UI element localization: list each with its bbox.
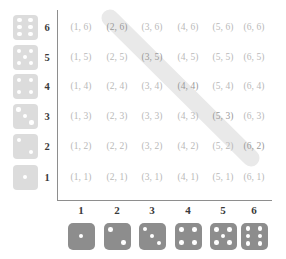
- die-pip: [157, 241, 162, 246]
- sample-space-cell: (4, 2): [177, 141, 198, 151]
- die-pip: [17, 32, 21, 36]
- die-face-6: [13, 15, 38, 40]
- row-axis-label: 1: [44, 172, 49, 183]
- die-pip: [192, 240, 197, 245]
- die-pip: [16, 107, 20, 111]
- die-pip: [214, 240, 219, 245]
- sample-space-cell: (2, 3): [106, 111, 127, 121]
- sample-space-cell: (1, 5): [70, 52, 91, 62]
- die-pip: [179, 227, 184, 232]
- die-face-1: [13, 165, 38, 190]
- sample-space-cell: (1, 6): [70, 22, 91, 32]
- die-pip: [29, 120, 33, 124]
- sample-space-cell: (5, 6): [212, 22, 233, 32]
- sample-space-cell: (3, 6): [141, 22, 162, 32]
- die-face-2: [104, 223, 131, 250]
- sample-space-cell: (6, 5): [243, 52, 264, 62]
- sample-space-cell: (6, 3): [243, 111, 264, 121]
- die-pip: [258, 226, 263, 231]
- die-pip: [17, 78, 21, 82]
- die-pip: [17, 18, 21, 22]
- die-pip: [23, 55, 27, 59]
- column-axis-label: 2: [114, 204, 120, 216]
- die-pip: [192, 227, 197, 232]
- column-axis-label: 3: [149, 204, 155, 216]
- die-pip: [28, 32, 32, 36]
- sample-space-cell: (4, 4): [177, 81, 198, 91]
- sample-space-cell: (5, 4): [212, 81, 233, 91]
- die-face-3: [139, 223, 166, 250]
- sample-space-cell: (2, 2): [106, 141, 127, 151]
- die-face-5: [210, 223, 237, 250]
- sample-space-cell: (3, 2): [141, 141, 162, 151]
- die-face-6: [241, 223, 268, 250]
- column-axis-label: 1: [78, 204, 84, 216]
- row-axis-label: 4: [44, 81, 49, 92]
- row-axis-label: 5: [44, 52, 49, 63]
- die-pip: [29, 150, 33, 154]
- vertical-axis-line: [57, 10, 58, 200]
- die-pip: [17, 61, 21, 65]
- sample-space-cell: (3, 3): [141, 111, 162, 121]
- sample-space-cell: (6, 1): [243, 172, 264, 182]
- die-pip: [23, 114, 27, 118]
- die-pip: [258, 234, 263, 239]
- die-pip: [17, 25, 21, 29]
- die-pip: [29, 61, 33, 65]
- row-axis-label: 2: [44, 141, 49, 152]
- column-axis-label: 4: [185, 204, 191, 216]
- sample-space-cell: (2, 1): [106, 172, 127, 182]
- die-face-3: [13, 104, 38, 129]
- die-pip: [246, 234, 251, 239]
- sample-space-cell: (2, 5): [106, 52, 127, 62]
- die-pip: [227, 240, 232, 245]
- column-axis-label: 5: [220, 204, 226, 216]
- sample-space-cell: (1, 2): [70, 141, 91, 151]
- column-axis-label: 6: [251, 204, 257, 216]
- die-pip: [227, 227, 232, 232]
- die-pip: [214, 227, 219, 232]
- sample-space-cell: (6, 6): [243, 22, 264, 32]
- row-axis-label: 6: [44, 22, 49, 33]
- die-pip: [17, 90, 21, 94]
- die-pip: [29, 90, 33, 94]
- die-face-4: [175, 223, 202, 250]
- sample-space-cell: (4, 5): [177, 52, 198, 62]
- sample-space-cell: (3, 1): [141, 172, 162, 182]
- die-pip: [150, 234, 155, 239]
- die-face-1: [68, 223, 95, 250]
- die-pip: [246, 226, 251, 231]
- sample-space-cell: (6, 4): [243, 81, 264, 91]
- die-pip: [29, 49, 33, 53]
- die-pip: [143, 227, 148, 232]
- sample-space-cell: (4, 6): [177, 22, 198, 32]
- sample-space-cell: (5, 1): [212, 172, 233, 182]
- die-pip: [28, 25, 32, 29]
- horizontal-axis-line: [57, 200, 272, 201]
- die-pip: [79, 234, 84, 239]
- die-pip: [29, 78, 33, 82]
- sample-space-cell: (3, 4): [141, 81, 162, 91]
- die-pip: [179, 240, 184, 245]
- die-pip: [17, 138, 21, 142]
- sample-space-cell: (3, 5): [141, 52, 162, 62]
- sample-space-cell: (2, 4): [106, 81, 127, 91]
- die-pip: [17, 49, 21, 53]
- die-face-5: [13, 45, 38, 70]
- die-face-4: [13, 74, 38, 99]
- sample-space-cell: (2, 6): [106, 22, 127, 32]
- die-face-2: [13, 134, 38, 159]
- sample-space-cell: (1, 4): [70, 81, 91, 91]
- sample-space-cell: (6, 2): [243, 141, 264, 151]
- die-pip: [121, 240, 126, 245]
- sample-space-cell: (5, 5): [212, 52, 233, 62]
- die-pip: [28, 18, 32, 22]
- sample-space-cell: (5, 3): [212, 111, 233, 121]
- die-pip: [221, 234, 226, 239]
- die-pip: [108, 227, 113, 232]
- die-pip: [258, 241, 263, 246]
- figure-canvas: (1, 6)(2, 6)(3, 6)(4, 6)(5, 6)(6, 6)(1, …: [0, 0, 286, 259]
- sample-space-cell: (4, 3): [177, 111, 198, 121]
- row-axis-label: 3: [44, 111, 49, 122]
- die-pip: [23, 175, 27, 179]
